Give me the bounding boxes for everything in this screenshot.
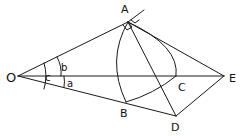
right-angle-marker-2 [131,20,139,23]
label-D: D [171,121,179,134]
arc-BC [126,76,176,102]
line-OD [18,76,176,116]
angle-label-c: c [45,72,51,83]
arc-AB [116,22,128,102]
angle-arc-a [64,76,65,87]
geometry-diagram: O A B C D E a b c [0,0,245,136]
label-O: O [6,70,16,85]
label-C: C [178,81,186,94]
arc-AC [128,22,176,76]
line-AD [128,22,176,116]
angle-label-b: b [61,62,67,73]
label-E: E [229,72,236,85]
angle-label-a: a [67,78,73,89]
line-A-extension [128,10,144,22]
label-A: A [121,3,129,16]
line-OA [18,22,128,76]
label-B: B [120,107,128,120]
